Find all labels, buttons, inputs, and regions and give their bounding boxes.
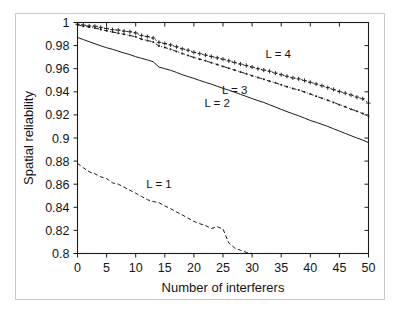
marker-dot-1-29 bbox=[245, 73, 247, 75]
y-tick-label-7: 0.94 bbox=[45, 85, 69, 99]
x-tick-label-2: 10 bbox=[129, 261, 143, 275]
marker-dot-1-4 bbox=[100, 28, 102, 30]
annotation-l1: L = 1 bbox=[146, 178, 171, 190]
x-tick-label-0: 0 bbox=[74, 261, 81, 275]
spatial-reliability-line-chart: 0.80.820.840.860.880.90.920.940.960.981 … bbox=[0, 0, 401, 316]
marker-dot-1-32 bbox=[263, 78, 265, 80]
marker-dot-1-11 bbox=[141, 38, 143, 40]
marker-dot-1-8 bbox=[123, 33, 125, 35]
marker-dot-1-35 bbox=[280, 84, 282, 86]
marker-dot-1-34 bbox=[274, 82, 276, 84]
marker-dot-1-30 bbox=[251, 75, 253, 77]
marker-dot-1-24 bbox=[216, 64, 218, 66]
x-tick-label-3: 15 bbox=[158, 261, 172, 275]
data-series-group bbox=[75, 22, 370, 253]
marker-dot-1-50 bbox=[368, 115, 370, 117]
y-tick-label-6: 0.92 bbox=[45, 108, 69, 122]
y-tick-label-8: 0.96 bbox=[45, 62, 69, 76]
marker-dot-1-7 bbox=[117, 32, 119, 34]
x-tick-label-4: 20 bbox=[187, 261, 201, 275]
marker-dot-1-16 bbox=[170, 48, 172, 50]
marker-dot-1-9 bbox=[129, 34, 131, 36]
marker-dot-1-27 bbox=[234, 69, 236, 71]
marker-dot-1-0 bbox=[77, 24, 79, 26]
marker-dot-1-13 bbox=[152, 41, 154, 43]
marker-dot-1-23 bbox=[210, 62, 212, 64]
marker-dot-1-38 bbox=[298, 89, 300, 91]
marker-dot-1-45 bbox=[338, 104, 340, 106]
marker-dot-1-48 bbox=[356, 110, 358, 112]
y-tick-label-0: 0.8 bbox=[52, 247, 69, 261]
marker-dot-1-15 bbox=[164, 46, 166, 48]
marker-dot-1-21 bbox=[199, 58, 201, 60]
y-tick-label-2: 0.84 bbox=[45, 201, 69, 215]
marker-dot-1-44 bbox=[333, 101, 335, 103]
marker-dot-1-42 bbox=[321, 97, 323, 99]
marker-dot-1-46 bbox=[344, 106, 346, 108]
marker-dot-1-2 bbox=[88, 26, 90, 28]
annotation-l3: L = 3 bbox=[222, 84, 247, 96]
x-tick-label-5: 25 bbox=[216, 261, 230, 275]
x-tick-label-1: 5 bbox=[103, 261, 110, 275]
marker-dot-1-41 bbox=[315, 95, 317, 97]
marker-dot-1-6 bbox=[111, 31, 113, 33]
x-tick-label-9: 45 bbox=[332, 261, 346, 275]
figure-root: 0.80.820.840.860.880.90.920.940.960.981 … bbox=[0, 0, 401, 316]
annotation-l2: L = 2 bbox=[204, 97, 229, 109]
marker-dot-1-39 bbox=[303, 91, 305, 93]
y-tick-label-9: 0.98 bbox=[45, 39, 69, 53]
marker-dot-1-14 bbox=[158, 45, 160, 47]
x-tick-label-7: 35 bbox=[274, 261, 288, 275]
series-l1 bbox=[78, 163, 369, 253]
marker-dot-1-1 bbox=[82, 25, 84, 27]
marker-dot-1-43 bbox=[327, 99, 329, 101]
marker-dot-1-18 bbox=[181, 52, 183, 54]
y-tick-label-10: 1 bbox=[63, 16, 70, 30]
x-tick-label-10: 50 bbox=[362, 261, 376, 275]
marker-dot-1-17 bbox=[175, 50, 177, 52]
marker-dot-1-49 bbox=[362, 113, 364, 115]
y-axis-tick-labels: 0.80.820.840.860.880.90.920.940.960.981 bbox=[45, 16, 69, 261]
marker-dot-1-5 bbox=[106, 30, 108, 32]
marker-dot-1-22 bbox=[205, 60, 207, 62]
y-axis-title: Spatial reliability bbox=[21, 91, 36, 185]
series-line-3 bbox=[78, 163, 369, 253]
annotation-l4: L = 4 bbox=[266, 48, 292, 60]
x-axis-title: Number of interferers bbox=[162, 280, 285, 295]
marker-dot-1-28 bbox=[239, 71, 241, 73]
marker-dot-1-36 bbox=[286, 86, 288, 88]
marker-dot-1-37 bbox=[292, 88, 294, 90]
y-tick-label-4: 0.88 bbox=[45, 155, 69, 169]
marker-dot-1-3 bbox=[94, 27, 96, 29]
marker-dot-1-10 bbox=[135, 36, 137, 38]
y-tick-label-1: 0.82 bbox=[45, 224, 69, 238]
y-tick-label-3: 0.86 bbox=[45, 178, 69, 192]
marker-dot-1-25 bbox=[222, 65, 224, 67]
marker-dot-1-19 bbox=[187, 55, 189, 57]
x-tick-label-8: 40 bbox=[303, 261, 317, 275]
marker-dot-1-40 bbox=[309, 93, 311, 95]
marker-dot-1-31 bbox=[257, 76, 259, 78]
marker-dot-1-33 bbox=[269, 80, 271, 82]
marker-dot-1-26 bbox=[228, 67, 230, 69]
marker-dot-1-47 bbox=[350, 108, 352, 110]
axis-ticks bbox=[74, 23, 369, 258]
x-tick-label-6: 30 bbox=[245, 261, 259, 275]
marker-dot-1-20 bbox=[193, 56, 195, 58]
y-tick-label-5: 0.9 bbox=[52, 132, 69, 146]
x-axis-tick-labels: 05101520253035404550 bbox=[74, 261, 375, 275]
marker-dot-1-12 bbox=[146, 40, 148, 42]
